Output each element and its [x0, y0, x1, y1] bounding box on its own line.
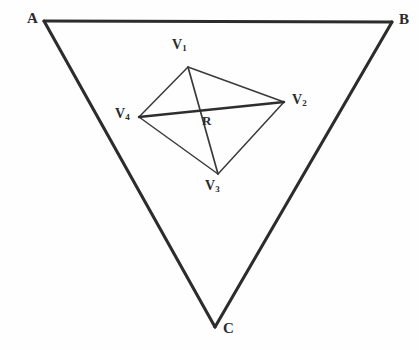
edge-v1-v2: [188, 67, 284, 102]
label-v2-base: V: [292, 92, 302, 107]
label-v4-subscript: 4: [125, 112, 130, 122]
label-vertex-v2: V2: [292, 93, 307, 107]
edge-bc: [215, 22, 392, 327]
diagonal-v4-v2: [139, 102, 284, 117]
inner-quadrilateral: [139, 67, 284, 174]
label-v3-subscript: 3: [215, 184, 220, 194]
geometry-figure: A B C V1 V2 V3 V4 R: [0, 0, 419, 350]
edge-v4-v1: [139, 67, 188, 117]
label-v1-subscript: 1: [182, 43, 187, 53]
label-vertex-c: C: [223, 321, 234, 336]
geometry-canvas: [0, 0, 419, 350]
label-vertex-v3: V3: [205, 179, 220, 193]
diagonals: [139, 67, 284, 174]
edge-v2-v3: [218, 102, 284, 174]
label-v1-base: V: [172, 37, 182, 52]
edge-ab: [44, 21, 392, 22]
label-v3-base: V: [205, 178, 215, 193]
label-v4-base: V: [115, 106, 125, 121]
label-vertex-v1: V1: [172, 38, 187, 52]
label-point-r: R: [202, 114, 211, 127]
label-vertex-a: A: [27, 11, 38, 26]
label-v2-subscript: 2: [302, 98, 307, 108]
label-vertex-b: B: [399, 12, 409, 27]
label-vertex-v4: V4: [115, 107, 130, 121]
